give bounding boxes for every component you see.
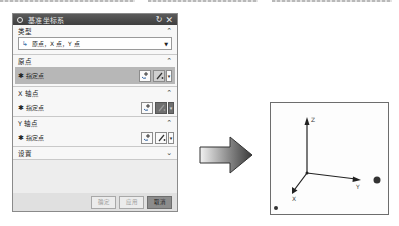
- section-y-axis-point-header[interactable]: Y 轴点 ⌃: [13, 117, 177, 129]
- point-dialog-button[interactable]: [141, 102, 153, 114]
- reference-point-bottom-left[interactable]: [274, 206, 278, 210]
- section-type-header[interactable]: 类型 ⌃: [13, 25, 177, 37]
- wand-icon: [157, 103, 166, 112]
- section-type: 类型 ⌃ ↳ 原点，X 点，Y 点 ▼: [13, 25, 177, 55]
- chevron-down-icon[interactable]: ⌄: [166, 149, 172, 157]
- section-origin: 原点 ⌃ ✱ 指定点 ▾: [13, 55, 177, 87]
- origin-specify-point-label: 指定点: [26, 71, 137, 80]
- apply-button[interactable]: 应用: [119, 196, 144, 209]
- right-arrow-icon: [199, 136, 253, 174]
- point-constructor-icon: [141, 71, 150, 80]
- dialog-titlebar: 基准坐标系 ↻ ✕: [13, 14, 177, 25]
- chevron-down-icon[interactable]: ▼: [164, 41, 168, 47]
- csys-preview: Z Y X: [271, 103, 388, 214]
- required-star-icon: ✱: [18, 104, 26, 112]
- x-arrow-icon: [292, 187, 298, 194]
- ok-button[interactable]: 确定: [91, 196, 116, 209]
- graphics-viewport[interactable]: Z Y X: [270, 102, 389, 215]
- chevron-up-icon[interactable]: ⌃: [166, 57, 172, 65]
- close-icon[interactable]: ✕: [165, 15, 173, 25]
- reset-icon[interactable]: ↻: [156, 15, 163, 24]
- cancel-button[interactable]: 取消: [147, 196, 172, 209]
- y-axis-label: Y: [355, 183, 360, 190]
- point-dialog-button[interactable]: [139, 70, 151, 82]
- section-x-axis-point-label: X 轴点: [18, 88, 166, 98]
- section-x-axis-point: X 轴点 ⌃ ✱ 指定点 ▾: [13, 87, 177, 117]
- section-x-axis-point-header[interactable]: X 轴点 ⌃: [13, 87, 177, 99]
- y-axis-specify-point-label: 指定点: [26, 133, 139, 142]
- section-origin-header[interactable]: 原点 ⌃: [13, 55, 177, 67]
- datum-csys-dialog: 基准坐标系 ↻ ✕ 类型 ⌃ ↳ 原点，X 点，Y 点 ▼ 原点 ⌃ ✱ 指定点: [12, 13, 178, 212]
- point-type-dropdown[interactable]: ▾: [168, 132, 174, 144]
- section-origin-label: 原点: [18, 56, 166, 66]
- wand-icon: [155, 71, 164, 80]
- required-star-icon: ✱: [18, 72, 26, 80]
- y-axis-specify-point-row[interactable]: ✱ 指定点 ▾: [13, 129, 177, 146]
- inferred-point-button[interactable]: [155, 102, 167, 114]
- reference-point-right[interactable]: [374, 177, 381, 184]
- z-axis-label: Z: [311, 116, 315, 123]
- x-axis-specify-point-label: 指定点: [26, 103, 139, 112]
- section-settings-label: 设置: [18, 148, 166, 158]
- inferred-point-button[interactable]: [153, 70, 165, 82]
- point-constructor-icon: [143, 133, 152, 142]
- point-dialog-button[interactable]: [141, 132, 153, 144]
- inferred-point-button[interactable]: [155, 132, 167, 144]
- y-axis: [307, 173, 356, 179]
- chevron-up-icon[interactable]: ⌃: [166, 27, 172, 35]
- wand-icon: [157, 133, 166, 142]
- chevron-up-icon[interactable]: ⌃: [166, 119, 172, 127]
- gear-icon[interactable]: [17, 17, 23, 23]
- section-y-axis-point-label: Y 轴点: [18, 118, 166, 128]
- point-type-dropdown[interactable]: ▾: [166, 70, 172, 82]
- chevron-up-icon[interactable]: ⌃: [166, 89, 172, 97]
- x-axis-label: X: [292, 195, 296, 202]
- origin-point: [306, 172, 309, 175]
- origin-specify-point-row[interactable]: ✱ 指定点 ▾: [15, 67, 175, 84]
- type-select[interactable]: ↳ 原点，X 点，Y 点 ▼: [18, 37, 172, 50]
- section-y-axis-point: Y 轴点 ⌃ ✱ 指定点 ▾: [13, 117, 177, 147]
- dialog-title: 基准坐标系: [28, 15, 156, 25]
- section-settings-header[interactable]: 设置 ⌄: [13, 147, 177, 159]
- section-type-label: 类型: [18, 26, 166, 36]
- z-arrow-icon: [305, 117, 310, 125]
- dialog-footer: 确定 应用 取消: [13, 193, 177, 211]
- type-select-value: 原点，X 点，Y 点: [32, 39, 164, 48]
- point-constructor-icon: [143, 103, 152, 112]
- x-axis: [295, 173, 307, 189]
- cropped-text-line: [0, 0, 399, 3]
- required-star-icon: ✱: [18, 134, 26, 142]
- y-arrow-icon: [353, 177, 362, 183]
- csys-type-icon: ↳: [22, 40, 30, 48]
- section-settings: 设置 ⌄: [13, 147, 177, 160]
- x-axis-specify-point-row[interactable]: ✱ 指定点 ▾: [13, 99, 177, 116]
- point-type-dropdown[interactable]: ▾: [168, 102, 174, 114]
